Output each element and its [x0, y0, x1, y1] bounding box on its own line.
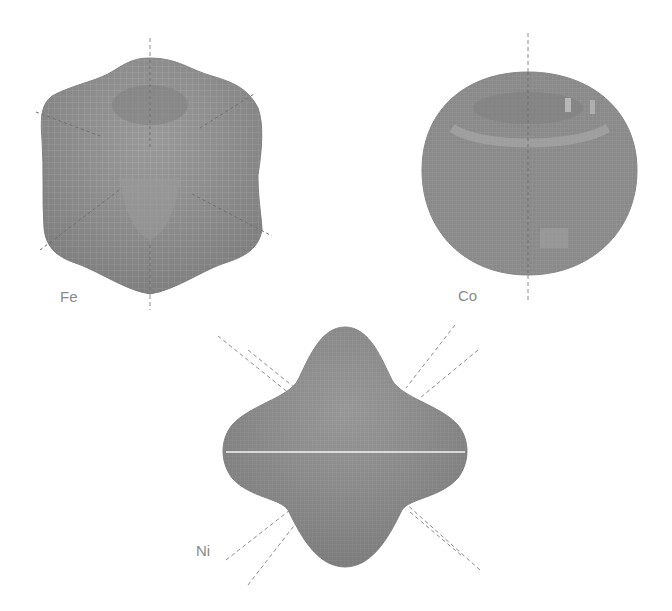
label-fe: Fe: [60, 288, 78, 305]
ni-axis-ul-1: [218, 336, 290, 394]
figure-canvas: [0, 0, 672, 611]
label-co: Co: [458, 287, 477, 304]
ni-shading: [223, 327, 467, 567]
fe-surface-group: [36, 38, 272, 310]
co-highlight-2: [590, 100, 595, 114]
ni-axis-ul-2: [248, 350, 300, 392]
ni-axis-lr-1: [404, 502, 480, 570]
ni-axis-lr-2: [410, 512, 462, 556]
co-surface-group: [422, 33, 637, 302]
ni-axis-ur-2: [420, 350, 478, 398]
co-highlight-1: [565, 98, 571, 112]
ni-axis-ur-1: [406, 325, 455, 388]
ni-axis-ll-2: [248, 518, 300, 585]
label-ni: Ni: [196, 542, 210, 559]
co-lower-highlight: [540, 228, 568, 248]
ni-surface-group: [218, 325, 480, 585]
ni-axis-ll-1: [226, 510, 290, 560]
